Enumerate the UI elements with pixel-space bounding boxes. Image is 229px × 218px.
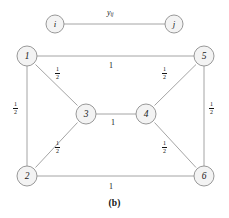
legend-variable-subscript: ij xyxy=(111,11,114,17)
graph-node-1-label: 1 xyxy=(25,51,30,61)
fraction-denominator: 2 xyxy=(162,74,167,80)
fraction-1-3: 1 2 xyxy=(55,66,60,80)
graph-node-3-label: 3 xyxy=(83,109,89,119)
fraction-1-2: 1 2 xyxy=(13,101,18,115)
fraction-numerator: 1 xyxy=(55,66,60,72)
edge-label-4-6: 1 2 xyxy=(162,140,167,154)
fraction-4-6: 1 2 xyxy=(162,140,167,154)
edge-4-6 xyxy=(155,123,197,168)
graph-node-6-label: 6 xyxy=(202,171,207,181)
edge-label-3-4: 1 xyxy=(111,119,115,127)
graph-figure: i j 1 2 3 4 5 6 yij 1 1 2 xyxy=(0,0,229,218)
fraction-denominator: 2 xyxy=(55,148,60,154)
fraction-numerator: 1 xyxy=(13,101,18,107)
edge-4-5 xyxy=(155,65,197,106)
fraction-denominator: 2 xyxy=(13,109,18,115)
edge-label-1-5: 1 xyxy=(109,62,113,70)
fraction-5-6: 1 2 xyxy=(209,101,214,115)
figure-caption: (b) xyxy=(0,198,229,208)
fraction-denominator: 2 xyxy=(209,109,214,115)
graph-node-4-label: 4 xyxy=(144,109,149,119)
graph-node-5-label: 5 xyxy=(202,51,207,61)
fraction-2-3: 1 2 xyxy=(55,140,60,154)
edge-label-1-3: 1 2 xyxy=(55,66,60,80)
fraction-4-5: 1 2 xyxy=(162,66,167,80)
fraction-numerator: 1 xyxy=(209,101,214,107)
edge-label-2-6: 1 xyxy=(109,183,113,191)
fraction-numerator: 1 xyxy=(55,140,60,146)
edge-label-2-3: 1 2 xyxy=(55,140,60,154)
graph-node-2-label: 2 xyxy=(25,171,30,181)
legend-node-j-label: j xyxy=(172,19,176,29)
fraction-numerator: 1 xyxy=(162,66,167,72)
edge-label-4-5: 1 2 xyxy=(162,66,167,80)
edge-label-1-2: 1 2 xyxy=(13,101,18,115)
fraction-denominator: 2 xyxy=(55,74,60,80)
fraction-denominator: 2 xyxy=(162,148,167,154)
graph-canvas: i j 1 2 3 4 5 6 xyxy=(0,0,229,218)
edge-label-5-6: 1 2 xyxy=(209,101,214,115)
legend-edge-variable-label: yij xyxy=(107,8,114,17)
fraction-numerator: 1 xyxy=(162,140,167,146)
